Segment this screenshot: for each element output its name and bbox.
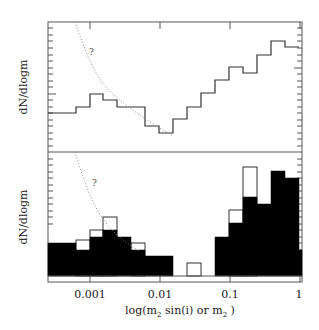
y-axis-label-bottom: dN/dlogm — [17, 189, 30, 245]
x-tick-label-1: 1 — [296, 288, 303, 301]
bottom-filled-bars — [48, 171, 302, 276]
top-question-mark: ? — [89, 47, 94, 57]
bottom-question-mark: ? — [92, 178, 97, 188]
x-ticks-bottom — [90, 276, 300, 282]
figure: ? ? 0.001 0.01 0. — [0, 0, 319, 330]
top-dotted-curve — [75, 22, 173, 136]
x-tick-label-0.01: 0.01 — [148, 288, 173, 301]
y-ticks-left-top — [48, 28, 56, 146]
x-tick-label-0.1: 0.1 — [221, 288, 239, 301]
x-ticks-top — [90, 22, 300, 29]
y-axis-label-top: dN/dlogm — [17, 59, 30, 115]
top-histogram — [48, 41, 299, 133]
x-tick-label-0.001: 0.001 — [74, 288, 106, 301]
y-ticks-left-bottom — [48, 159, 53, 224]
x-axis-label: log(m2 sin(i) or m2 ) — [125, 304, 235, 319]
